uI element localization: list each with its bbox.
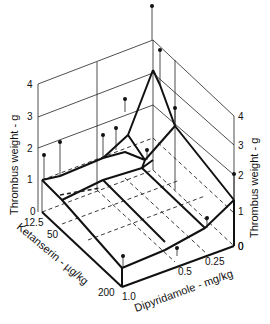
left-axis-ticks: 4 3 2 1 0: [27, 79, 36, 217]
left-axis-label: Thrombus weight - g: [8, 115, 20, 215]
surface-chart: 4 3 2 1 0 Thrombus weight - g 4 3 2 1 0 …: [0, 0, 270, 324]
right-tick-2: 2: [238, 170, 244, 181]
left-tick-3: 3: [27, 111, 33, 122]
dipyridamole-tick-0-25: 0.25: [205, 256, 225, 267]
response-surface: [42, 70, 234, 287]
right-axis-ticks: 4 3 2 1 0: [238, 111, 244, 252]
left-tick-2: 2: [27, 143, 33, 154]
right-tick-1: 1: [238, 206, 244, 217]
ketanserin-tick-50: 50: [47, 229, 59, 240]
ketanserin-tick-200: 200: [98, 287, 115, 298]
left-tick-0: 0: [30, 206, 36, 217]
right-tick-3: 3: [238, 140, 244, 151]
dipyridamole-tick-1-0: 1.0: [122, 291, 136, 302]
dipyridamole-tick-0-5: 0.5: [178, 266, 192, 277]
right-axis-label: Thrombus weight - g: [248, 138, 260, 238]
dipyridamole-tick-0: 0: [238, 241, 244, 252]
right-tick-4: 4: [238, 111, 244, 122]
left-tick-1: 1: [27, 174, 33, 185]
left-tick-4: 4: [27, 79, 33, 90]
back-wall-grid: [38, 40, 234, 246]
